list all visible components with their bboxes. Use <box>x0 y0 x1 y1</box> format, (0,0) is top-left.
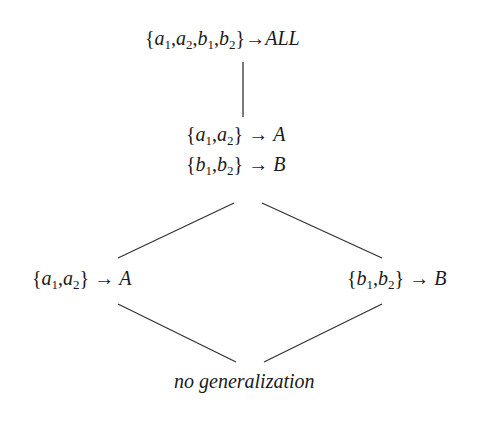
node-middle-line-a: {a1,a2} → A <box>186 122 285 146</box>
edges-layer <box>0 0 491 422</box>
arrow-icon: → <box>248 123 268 145</box>
node-left: {a1,a2} → A <box>32 266 131 290</box>
edge-middle-left <box>118 203 234 258</box>
edge-left-bottom <box>118 304 236 362</box>
node-top: {a1,a2,b1,b2}→ALL <box>145 26 300 50</box>
edge-middle-right <box>262 203 382 258</box>
node-middle-line-b: {b1,b2} → B <box>186 152 285 176</box>
arrow-icon: → <box>248 153 268 175</box>
node-right: {b1,b2} → B <box>347 266 446 290</box>
arrow-icon: → <box>94 267 114 289</box>
node-bottom-no-generalization: no generalization <box>174 370 315 393</box>
edge-right-bottom <box>264 304 382 362</box>
arrow-icon: → <box>245 27 265 49</box>
arrow-icon: → <box>409 267 429 289</box>
